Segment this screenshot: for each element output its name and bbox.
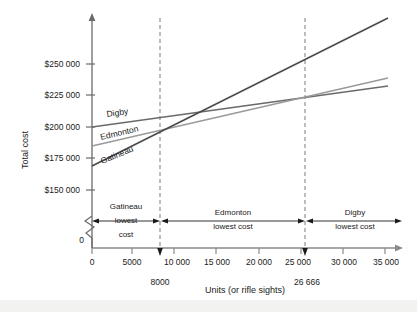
range-label-gatineau-line3: cost — [119, 230, 134, 239]
breakeven-label-8000: 8000 — [151, 277, 170, 287]
range-label-digby-line1: Digby — [345, 208, 365, 217]
x-tick-label-30000: 30 000 — [331, 257, 357, 267]
x-tick-label-0: 0 — [90, 257, 95, 267]
range-label-edmonton-line1: Edmonton — [215, 208, 251, 217]
x-tick-labels: 0 5000 10 000 15 000 20 000 25 000 30 00… — [90, 257, 400, 267]
y-axis-title: Total cost — [20, 130, 30, 169]
chart-canvas: $250 000 $225 000 $200 000 $175 000 $150… — [0, 0, 417, 300]
x-tick-label-5000: 5000 — [123, 257, 142, 267]
y-tick-label-175000: $175 000 — [45, 153, 81, 163]
chart-root: $250 000 $225 000 $200 000 $175 000 $150… — [0, 0, 417, 312]
x-tick-label-20000: 20 000 — [246, 257, 272, 267]
y-tick-label-150000: $150 000 — [45, 185, 81, 195]
y-axis — [89, 13, 96, 248]
y-origin-label: 0 — [79, 235, 84, 245]
range-label-digby-line2: lowest cost — [335, 222, 375, 231]
series-line-edmonton — [92, 78, 388, 146]
y-tick-labels: $250 000 $225 000 $200 000 $175 000 $150… — [45, 59, 85, 245]
x-tick-label-25000: 25 000 — [285, 257, 311, 267]
x-axis — [92, 245, 403, 252]
y-tick-label-200000: $200 000 — [45, 122, 81, 132]
range-label-gatineau-line2: lowest — [115, 216, 138, 225]
x-tick-marks — [92, 248, 385, 254]
range-label-gatineau-line1: Gatineau — [110, 202, 142, 211]
cost-comparison-chart: $250 000 $225 000 $200 000 $175 000 $150… — [0, 0, 417, 300]
series-label-digby: Digby — [106, 106, 130, 119]
x-tick-label-10000: 10 000 — [164, 257, 190, 267]
x-axis-title: Units (or rifle sights) — [205, 285, 285, 295]
y-tick-label-225000: $225 000 — [45, 90, 81, 100]
breakeven-label-26666: 26 666 — [294, 277, 320, 287]
range-label-edmonton-line2: lowest cost — [213, 222, 253, 231]
series-label-gatineau: Gatineau — [99, 144, 135, 166]
x-tick-label-15000: 15 000 — [204, 257, 230, 267]
x-tick-label-35000: 35 000 — [373, 257, 399, 267]
y-tick-label-250000: $250 000 — [45, 59, 81, 69]
